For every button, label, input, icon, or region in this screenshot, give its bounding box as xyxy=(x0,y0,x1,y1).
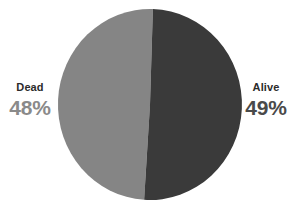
pie-slice-alive[interactable] xyxy=(144,9,242,200)
pie-label-alive: Alive 49% xyxy=(238,82,294,118)
pie-label-dead: Dead 48% xyxy=(2,82,58,118)
pie-chart: Dead 48% Alive 49% xyxy=(0,0,295,209)
pie-label-dead-value: 48% xyxy=(2,97,58,118)
pie-slice-dead[interactable] xyxy=(58,9,153,200)
pie-label-alive-name: Alive xyxy=(238,82,294,93)
pie-label-dead-name: Dead xyxy=(2,82,58,93)
pie-label-alive-value: 49% xyxy=(238,97,294,118)
